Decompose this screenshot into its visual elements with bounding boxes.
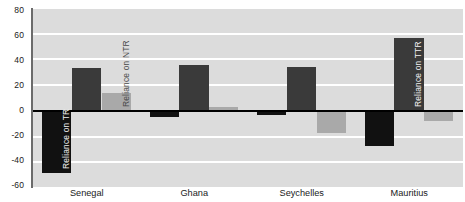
y-tick-label: 20 [14,80,24,90]
category-label: Senegal [70,188,104,198]
bar-annotation: Reliance on NTR [121,40,131,107]
bar [424,111,453,121]
bar-annotation: Reliance on TTR [413,41,423,107]
bar [365,111,394,146]
category-label: Ghana [180,188,208,198]
bar [150,111,179,117]
y-tick-label: -60 [11,180,24,190]
category-label: Seychelles [280,188,324,198]
plot-area: Reliance on TRReliance on NTRReliance on… [33,8,463,188]
bar [317,111,346,133]
y-tick-label: -20 [11,130,24,140]
bars-layer [33,8,463,188]
category-label: Mauritius [391,188,428,198]
zero-line [33,110,463,112]
y-tick-label: -40 [11,155,24,165]
y-tick-label: 40 [14,55,24,65]
bar-annotation: Reliance on TR [61,108,71,168]
bar [287,67,316,111]
y-tick-label: 80 [14,5,24,15]
bar [179,65,208,111]
bar [72,68,101,110]
bar-chart: 80 60 40 20 0 -20 -40 -60 Reliance on TR… [0,0,465,202]
x-axis-category-labels: SenegalGhanaSeychellesMauritius [33,188,463,202]
y-axis: 80 60 40 20 0 -20 -40 -60 [0,0,28,202]
y-tick-label: 0 [19,105,24,115]
y-tick-label: 60 [14,30,24,40]
